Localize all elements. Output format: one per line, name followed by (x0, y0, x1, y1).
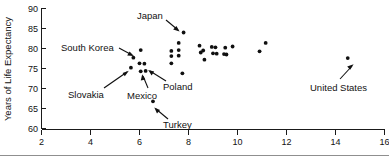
slovakia-leader-line (104, 72, 127, 88)
annotation-labels: Japan South Korea Slovakia Mexico Poland… (61, 10, 367, 130)
turkey-arrow-head (154, 108, 160, 114)
data-point (223, 46, 227, 50)
data-point (203, 58, 207, 62)
y-tick-label-80: 80 (28, 44, 38, 54)
x-axis-tick-labels: 2 4 6 8 10 12 14 16 (39, 137, 389, 147)
data-point (346, 56, 350, 60)
scatter-chart: Years of Life Expectancy 90 85 80 75 70 … (0, 0, 389, 158)
data-point (169, 49, 173, 53)
data-point (214, 45, 218, 49)
data-point (169, 61, 173, 65)
data-point (211, 51, 215, 55)
data-point (264, 41, 268, 45)
data-point (258, 49, 262, 53)
y-tick-label-85: 85 (28, 24, 38, 34)
y-tick-label-75: 75 (28, 64, 38, 74)
x-tick-label-12: 12 (281, 137, 291, 147)
y-tick-label-70: 70 (28, 84, 38, 94)
x-tick-label-14: 14 (330, 137, 340, 147)
data-point (177, 41, 181, 45)
annotation-label-slovakia: Slovakia (68, 89, 105, 100)
poland-arrow-head (148, 70, 154, 76)
data-point (182, 31, 186, 35)
annotation-label-south-korea: South Korea (61, 42, 115, 53)
data-point (143, 62, 147, 66)
data-point (210, 45, 214, 49)
plot-area: Years of Life Expectancy 90 85 80 75 70 … (0, 0, 389, 158)
data-point (198, 44, 202, 48)
annotation-label-mexico: Mexico (127, 90, 157, 101)
data-point (144, 69, 148, 73)
annotation-label-japan: Japan (137, 10, 163, 21)
y-axis-title: Years of Life Expectancy (2, 17, 13, 121)
y-tick-label-60: 60 (28, 124, 38, 134)
x-tick-label-4: 4 (88, 137, 93, 147)
annotation-label-turkey: Turkey (163, 119, 192, 130)
y-axis-tick-labels: 90 85 80 75 70 65 60 (28, 4, 38, 134)
data-point (231, 45, 235, 49)
y-tick-label-65: 65 (28, 104, 38, 114)
united-states-arrow-head (347, 64, 353, 70)
data-point (225, 53, 229, 57)
x-tick-label-6: 6 (137, 137, 142, 147)
data-point (139, 69, 143, 73)
data-point (177, 54, 181, 58)
y-tick-label-90: 90 (28, 4, 38, 14)
annotation-label-united-states: United States (310, 82, 367, 93)
x-tick-label-10: 10 (232, 137, 242, 147)
data-point (169, 54, 173, 58)
data-point (177, 48, 181, 52)
slovakia-arrow-head (123, 71, 129, 76)
annotation-leaders (104, 20, 354, 119)
data-point (138, 61, 142, 65)
x-tick-label-16: 16 (379, 137, 389, 147)
annotation-label-poland: Poland (163, 81, 193, 92)
data-point (180, 71, 184, 75)
data-point (139, 48, 143, 52)
x-tick-label-8: 8 (186, 137, 191, 147)
x-tick-label-2: 2 (39, 137, 44, 147)
data-point (131, 56, 135, 60)
x-axis-ticks (42, 130, 385, 135)
south-korea-arrow-head (127, 52, 134, 56)
data-point (129, 66, 133, 70)
data-point (201, 49, 205, 53)
y-axis-ticks (42, 9, 46, 129)
data-point (215, 52, 219, 56)
